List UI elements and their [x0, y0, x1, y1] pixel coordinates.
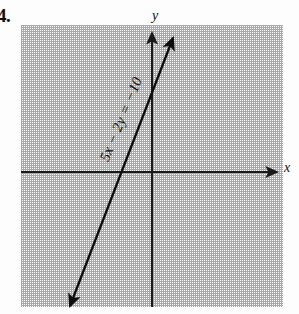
x-axis-label: x — [284, 160, 290, 176]
y-axis-label: y — [152, 8, 158, 24]
worksheet-figure: 4. y x 5x − 2y = −10 — [0, 0, 299, 314]
graph-vector-layer — [0, 0, 299, 314]
